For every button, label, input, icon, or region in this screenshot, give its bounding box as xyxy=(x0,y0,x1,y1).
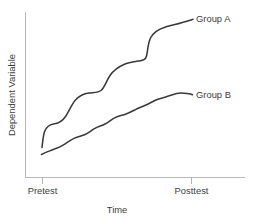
line-chart-canvas: Group A Group B Pretest Posttest Time De… xyxy=(0,0,258,221)
series-label-group-b: Group B xyxy=(196,89,231,100)
x-tick-label-posttest: Posttest xyxy=(175,185,209,196)
series-label-group-a: Group A xyxy=(196,13,231,24)
x-axis-title: Time xyxy=(107,204,127,215)
x-tick-label-pretest: Pretest xyxy=(28,185,58,196)
series-line-group-a xyxy=(42,19,193,147)
chart-figure: Group A Group B Pretest Posttest Time De… xyxy=(0,0,258,221)
series-line-group-b xyxy=(42,93,193,155)
y-axis-title: Dependent Variable xyxy=(6,54,17,136)
